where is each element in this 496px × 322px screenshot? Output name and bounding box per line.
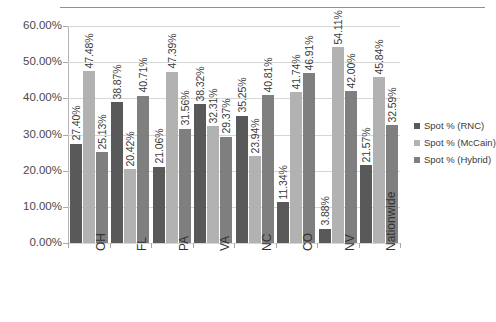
x-axis-category-label: PA	[178, 236, 190, 251]
bar-value-label: 38.32%	[195, 66, 206, 101]
bar	[83, 71, 95, 243]
bar-group: 38.32%32.31%29.37%	[193, 26, 235, 243]
bar-group: 3.88%54.11%42.00%	[317, 26, 359, 243]
x-axis-category-label: CO	[302, 233, 314, 251]
bar	[332, 47, 344, 243]
bar-value-label: 40.81%	[262, 57, 273, 92]
bar	[96, 152, 108, 243]
bar-value-label: 54.11%	[332, 10, 343, 44]
x-axis-tick-mark	[68, 243, 69, 248]
bar-value-label: 42.00%	[345, 53, 356, 88]
bar-value-label: 47.48%	[83, 33, 94, 68]
legend-swatch-icon	[414, 157, 420, 163]
y-axis-tick-label: 20.00%	[6, 165, 62, 177]
x-axis-tick-mark	[276, 243, 277, 248]
legend-label: Spot % (Hybrid)	[424, 154, 491, 165]
chart-legend: Spot % (RNC)Spot % (McCain)Spot % (Hybri…	[414, 120, 496, 171]
legend-item[interactable]: Spot % (McCain)	[414, 137, 496, 148]
x-axis-tick-mark	[359, 243, 360, 248]
x-axis-tick-mark	[400, 243, 401, 248]
bar-value-label: 38.87%	[112, 64, 123, 99]
bar	[249, 156, 261, 243]
bar-value-label: 35.25%	[236, 78, 247, 113]
bar-value-label: 25.13%	[96, 114, 107, 149]
bar	[303, 73, 315, 243]
bar-value-label: 31.56%	[179, 91, 190, 126]
x-axis-category-label: NV	[344, 234, 356, 251]
bar	[111, 102, 123, 243]
bar-value-label: 11.34%	[278, 165, 289, 199]
x-axis-category-label: FL	[136, 237, 148, 251]
y-axis-tick-label: 50.00%	[6, 56, 62, 68]
y-axis-tick-label: 40.00%	[6, 92, 62, 104]
bar-group: 38.87%20.42%40.71%	[110, 26, 152, 243]
bar	[153, 167, 165, 243]
plot-area: 27.40%47.48%25.13%38.87%20.42%40.71%21.0…	[68, 26, 400, 243]
bar	[166, 72, 178, 243]
y-axis-tick-label: 60.00%	[6, 20, 62, 32]
bar	[220, 137, 232, 243]
x-axis-tick-mark	[234, 243, 235, 248]
x-axis-tick-mark	[110, 243, 111, 248]
bar-value-label: 32.31%	[208, 88, 219, 123]
y-axis: 0.00%10.00%20.00%30.00%40.00%50.00%60.00…	[0, 0, 62, 322]
x-axis-category-label: NC	[261, 234, 273, 251]
x-axis-tick-mark	[151, 243, 152, 248]
y-axis-tick-label: 30.00%	[6, 129, 62, 141]
bar	[207, 126, 219, 243]
bar-value-label: 45.84%	[374, 39, 385, 74]
bar	[360, 165, 372, 243]
bar	[137, 96, 149, 243]
legend-swatch-icon	[414, 140, 420, 146]
bar-value-label: 41.74%	[291, 54, 302, 89]
bar	[345, 91, 357, 243]
bar-value-label: 47.39%	[166, 34, 177, 69]
bar-value-label: 29.37%	[221, 99, 232, 134]
legend-item[interactable]: Spot % (RNC)	[414, 120, 496, 131]
bar-group: 21.06%47.39%31.56%	[151, 26, 193, 243]
bar-value-label: 32.59%	[387, 87, 398, 122]
bar-value-label: 27.40%	[70, 106, 81, 141]
bar	[70, 144, 82, 243]
bar	[290, 92, 302, 243]
legend-label: Spot % (RNC)	[424, 120, 484, 131]
bar	[319, 229, 331, 243]
bar	[262, 95, 274, 243]
x-axis-tick-mark	[193, 243, 194, 248]
bar-value-label: 3.88%	[319, 197, 330, 226]
legend-item[interactable]: Spot % (Hybrid)	[414, 154, 496, 165]
x-axis-category-label: Nationwide	[385, 192, 397, 251]
bar	[277, 202, 289, 243]
bar-value-label: 20.42%	[125, 131, 136, 166]
legend-label: Spot % (McCain)	[424, 137, 496, 148]
y-axis-tick-label: 10.00%	[6, 201, 62, 213]
bar-value-label: 40.71%	[138, 58, 149, 93]
bar	[194, 104, 206, 243]
bar-group: 27.40%47.48%25.13%	[68, 26, 110, 243]
bar-value-label: 23.94%	[249, 118, 260, 153]
x-axis-tick-mark	[317, 243, 318, 248]
bar-group: 35.25%23.94%40.81%	[234, 26, 276, 243]
header-divider	[60, 7, 485, 8]
bar-value-label: 21.06%	[153, 129, 164, 164]
bar-value-label: 46.91%	[304, 35, 315, 70]
legend-swatch-icon	[414, 123, 420, 129]
x-axis-category-label: VA	[219, 236, 231, 251]
bar-group: 11.34%41.74%46.91%	[276, 26, 318, 243]
bar	[179, 129, 191, 243]
x-axis-category-label: OH	[95, 233, 107, 251]
bar	[124, 169, 136, 243]
bar-value-label: 21.57%	[361, 127, 372, 162]
y-axis-tick-label: 0.00%	[6, 237, 62, 249]
bar	[236, 116, 248, 243]
